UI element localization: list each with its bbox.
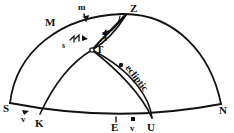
- ecliptic-arc-main: [92, 16, 152, 118]
- label-N: N: [219, 104, 227, 116]
- label-v-bottom: v: [130, 123, 135, 133]
- meridian-dome-arc: [10, 14, 221, 104]
- tick-s-chevron-2: [75, 35, 79, 41]
- label-t: t: [104, 33, 107, 43]
- tick-v-bottom: [131, 117, 135, 121]
- intersection-point-T: [90, 48, 94, 52]
- label-E: E: [111, 121, 118, 133]
- label-s: s: [62, 41, 65, 50]
- great-circle-K-Z: [40, 15, 126, 114]
- label-S: S: [3, 102, 9, 114]
- label-M: M: [45, 16, 56, 28]
- label-T: T: [96, 43, 104, 55]
- label-U: U: [147, 121, 155, 133]
- celestial-sphere-diagram: Z M m t s T S N K E U v v ecliptic: [0, 0, 234, 133]
- tick-s-arrowhead: [82, 35, 88, 41]
- label-K: K: [35, 117, 44, 129]
- tick-s-chevron-1: [70, 36, 74, 42]
- label-v-left: v: [21, 114, 26, 124]
- label-ecliptic: ecliptic: [123, 62, 151, 93]
- label-m: m: [78, 2, 86, 12]
- angle-wedge-at-Z: [112, 15, 126, 30]
- label-Z: Z: [130, 2, 137, 14]
- diagram-canvas: Z M m t s T S N K E U v v ecliptic: [0, 0, 234, 133]
- ecliptic-bullet-icon: [119, 63, 123, 67]
